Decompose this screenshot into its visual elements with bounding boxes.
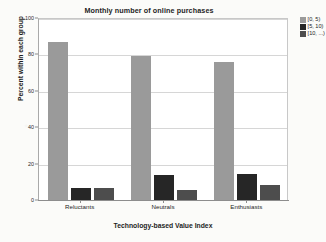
y-tick-mark: [35, 18, 38, 19]
legend-label: [0, 5): [308, 17, 321, 23]
plot-area: [38, 18, 288, 200]
y-tick-mark: [35, 127, 38, 128]
y-axis-title: Percent within each group: [17, 0, 24, 134]
bar-series-container: [39, 19, 287, 200]
bar: [260, 185, 280, 200]
y-tick-mark: [35, 163, 38, 164]
y-tick-mark: [35, 90, 38, 91]
y-tick-label: 20: [0, 161, 34, 167]
bar: [214, 62, 234, 200]
x-tick-mark: [80, 200, 81, 203]
legend-label: [5, 10): [308, 24, 324, 30]
bar-group: [206, 19, 289, 200]
bar: [94, 188, 114, 200]
bar-group: [122, 19, 205, 200]
legend-swatch-icon: [300, 31, 306, 37]
x-tick-mark: [246, 200, 247, 203]
y-tick-mark: [35, 54, 38, 55]
bar: [177, 190, 197, 200]
y-tick-label: 0: [0, 197, 34, 203]
legend-item: [10, ...): [300, 31, 325, 37]
legend-item: [5, 10): [300, 24, 325, 30]
bar: [131, 56, 151, 200]
legend-swatch-icon: [300, 17, 306, 23]
x-axis-title: Technology-based Value Index: [38, 222, 288, 229]
x-tick-label: Enthusiasts: [230, 203, 262, 210]
bar: [237, 174, 257, 200]
legend-swatch-icon: [300, 24, 306, 30]
x-tick-mark: [163, 200, 164, 203]
bar: [48, 42, 68, 200]
legend-label: [10, ...): [308, 31, 325, 37]
bar: [154, 175, 174, 200]
chart-legend: [0, 5)[5, 10)[10, ...): [300, 17, 325, 37]
bar-group: [39, 19, 122, 200]
bar-chart-figure: Monthly number of online purchases [0, 5…: [0, 0, 326, 242]
chart-title: Monthly number of online purchases: [0, 6, 326, 15]
bar: [71, 188, 91, 200]
y-tick-mark: [35, 200, 38, 201]
x-tick-label: Neutrals: [151, 203, 174, 210]
x-tick-label: Reluctants: [65, 203, 94, 210]
legend-item: [0, 5): [300, 17, 325, 23]
